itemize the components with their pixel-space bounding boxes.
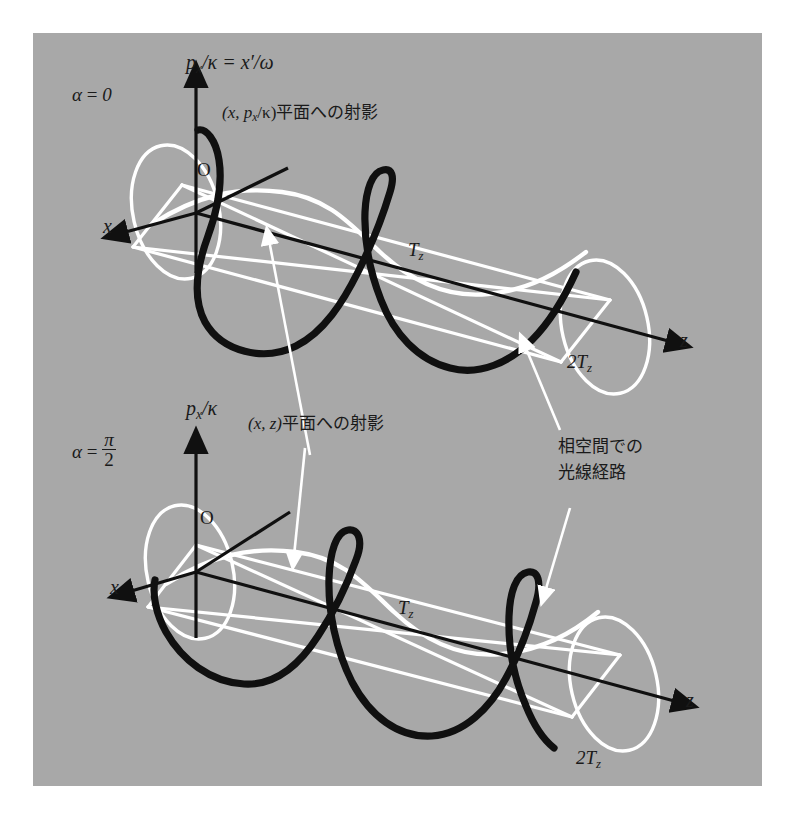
ray-path-bottom	[154, 530, 554, 748]
axis-label-px-top: px/κ = x′/ω	[186, 52, 274, 75]
annotation-projection-xp: (x, px/κ)平面への射影	[222, 104, 378, 124]
axis-label-px-bottom: px/κ	[186, 398, 217, 421]
axis-label-x-top: x	[103, 216, 112, 236]
origin-label-top: O	[197, 160, 211, 179]
annotation-raypath-line1: 相空間での	[558, 438, 643, 455]
axis-z-top	[196, 213, 672, 342]
alpha-label-top: α = 0	[72, 85, 112, 104]
annotation-projection-xz: (x, z)平面への射影	[248, 415, 384, 432]
pointer-raypath-to-bottom	[545, 508, 570, 592]
double-period-label-bottom: 2Tz	[576, 748, 601, 771]
axis-label-z-bottom: z	[686, 690, 694, 710]
period-label-bottom: Tz	[398, 598, 414, 621]
figure-root: α = 0 px/κ = x′/ω x z O Tz 2Tz (x, px/κ)…	[0, 0, 795, 822]
ray-path-top	[197, 130, 576, 370]
period-label-top: Tz	[408, 240, 424, 263]
axis-label-x-bottom: x	[110, 577, 119, 597]
figure-drawing-layer	[0, 0, 795, 822]
pointer-xz-to-bottom-panel	[294, 448, 305, 556]
annotation-raypath-line2: 光線経路	[558, 464, 626, 481]
origin-label-bottom: O	[200, 508, 214, 527]
double-period-label-top: 2Tz	[567, 352, 592, 375]
axis-label-z-top: z	[680, 330, 688, 350]
projection-ellipse-top-end	[548, 251, 662, 403]
alpha-label-bottom: α = π 2	[72, 430, 116, 470]
